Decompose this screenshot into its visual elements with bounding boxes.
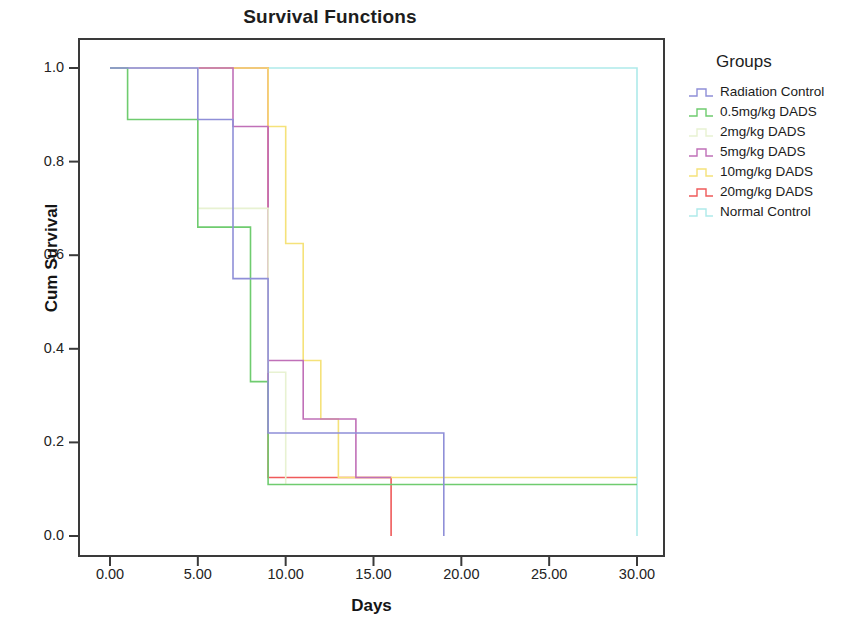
- legend-item-label: 0.5mg/kg DADS: [720, 104, 817, 119]
- legend-swatch-icon: [688, 205, 714, 218]
- legend-entries: Radiation Control0.5mg/kg DADS2mg/kg DAD…: [688, 82, 844, 221]
- legend-item-label: 10mg/kg DADS: [720, 164, 813, 179]
- legend-item[interactable]: Normal Control: [688, 202, 844, 221]
- legend-item[interactable]: 10mg/kg DADS: [688, 162, 844, 181]
- x-tick-label: 5.00: [166, 566, 230, 582]
- legend-swatch-icon: [688, 105, 714, 118]
- y-tick-label: 0.2: [18, 433, 64, 449]
- x-tick-label: 0.00: [78, 566, 142, 582]
- legend-item-label: 2mg/kg DADS: [720, 124, 806, 139]
- legend-swatch-icon: [688, 125, 714, 138]
- legend-swatch-icon: [688, 85, 714, 98]
- x-axis-label: Days: [78, 596, 665, 616]
- x-tick-label: 25.00: [517, 566, 581, 582]
- legend-item[interactable]: 2mg/kg DADS: [688, 122, 844, 141]
- legend-swatch-icon: [688, 185, 714, 198]
- y-tick-label: 0.0: [18, 527, 64, 543]
- legend-item[interactable]: 5mg/kg DADS: [688, 142, 844, 161]
- x-tick-label: 15.00: [342, 566, 406, 582]
- plot-area: [78, 38, 665, 557]
- y-axis-label: Cum Survival: [42, 128, 62, 388]
- legend-swatch-icon: [688, 165, 714, 178]
- legend-item-label: Normal Control: [720, 204, 811, 219]
- x-tick-label: 30.00: [605, 566, 669, 582]
- legend-item-label: 20mg/kg DADS: [720, 184, 813, 199]
- legend-item-label: Radiation Control: [720, 84, 824, 99]
- chart-title: Survival Functions: [0, 6, 660, 28]
- legend-item[interactable]: 20mg/kg DADS: [688, 182, 844, 201]
- legend-item[interactable]: 0.5mg/kg DADS: [688, 102, 844, 121]
- legend-item[interactable]: Radiation Control: [688, 82, 844, 101]
- x-tick-label: 10.00: [254, 566, 318, 582]
- legend-swatch-icon: [688, 145, 714, 158]
- y-tick-label: 1.0: [18, 59, 64, 75]
- legend: Groups Radiation Control0.5mg/kg DADS2mg…: [688, 52, 844, 222]
- legend-title: Groups: [716, 52, 844, 72]
- chart-page: Survival Functions 0.00.20.40.60.81.0 0.…: [0, 0, 844, 626]
- legend-item-label: 5mg/kg DADS: [720, 144, 806, 159]
- x-tick-label: 20.00: [429, 566, 493, 582]
